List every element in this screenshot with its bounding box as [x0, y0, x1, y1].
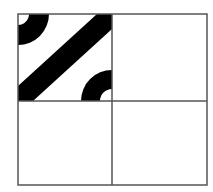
tile-bottom-right-blank — [113, 102, 206, 184]
tile-top-left-patterned — [18, 14, 112, 101]
tile-bottom-left-blank — [19, 102, 111, 184]
quarter-ring-bottom-right — [81, 70, 112, 101]
grid-lines — [18, 14, 207, 185]
quarter-ring-top-left — [18, 14, 49, 45]
tile-top-right-blank — [113, 15, 206, 100]
diagram-canvas — [0, 0, 213, 192]
tile-grid-diagram — [0, 0, 213, 192]
